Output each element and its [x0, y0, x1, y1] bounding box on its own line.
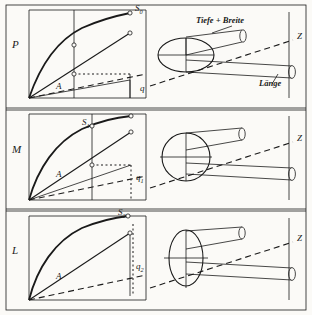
row-l-group [29, 214, 295, 300]
q-label-l: q2 [136, 262, 144, 273]
row-m-group [29, 114, 295, 200]
row-label-m: M [12, 144, 21, 155]
m-node-s1 [129, 114, 133, 118]
curve-label-s0: S0 [135, 4, 143, 15]
l-curve-s2 [29, 216, 128, 300]
q-label-p: q [140, 84, 145, 93]
row-label-p: P [12, 39, 19, 50]
curve-label-a-l: A [56, 272, 62, 281]
q-label-m: q1 [136, 173, 144, 184]
outer-frame [6, 5, 306, 310]
p-cone-upper-cap [240, 30, 246, 42]
z-label-p: Z [297, 32, 302, 41]
p-node-a [128, 31, 132, 35]
curve-label-a-m: A [56, 170, 62, 179]
p-node-s0 [128, 11, 132, 15]
m-line-q [29, 165, 131, 200]
figure-root: .ink{stroke:#1a1a1a;fill:none;} .thin{st… [0, 0, 312, 315]
m-node-a-mid [90, 163, 94, 167]
curve-label-s1: S1 [82, 118, 90, 129]
m-cone-lower-cap [289, 168, 296, 181]
z-label-m: Z [297, 134, 302, 143]
l-cone-upper-top [186, 227, 242, 231]
row-label-l: L [12, 245, 18, 256]
l-cone-lower-cap [289, 268, 296, 281]
p-node-s-mid [72, 43, 76, 47]
diagram-canvas: .ink{stroke:#1a1a1a;fill:none;} .thin{st… [0, 0, 312, 315]
l-cone-lower-bot [186, 274, 292, 280]
l-line-a [29, 233, 130, 300]
l-node-a [128, 231, 132, 235]
m-z-axis [150, 142, 293, 188]
l-dashed-ref [29, 275, 146, 300]
annotation-tiefe-breite: Tiefe + Breite [196, 16, 244, 25]
m-node-a [129, 130, 133, 134]
l-cone-upper-bot [186, 239, 242, 249]
m-cone-upper-cap [239, 128, 245, 140]
p-cone-lower-top [186, 60, 292, 66]
m-cone-lower-top [186, 163, 292, 168]
l-z-axis [150, 242, 293, 288]
curve-label-a-p: A [56, 82, 62, 91]
annotation-laenge: Länge [259, 79, 281, 88]
p-curve-s0 [29, 13, 130, 98]
m-cone-lower-bot [186, 174, 292, 180]
row-p-group [29, 10, 295, 98]
l-cone-upper-cap [239, 227, 245, 239]
p-cone-lower-cap [289, 66, 296, 79]
p-dashed-ref [29, 74, 146, 98]
m-cone-upper-top [186, 128, 242, 133]
p-node-a-mid [72, 72, 76, 76]
m-curve-s1 [29, 116, 131, 200]
z-label-l: Z [297, 234, 302, 243]
m-node-s-mid [90, 124, 94, 128]
curve-label-s2: S2 [118, 208, 126, 219]
m-cone-upper-bot [186, 140, 242, 150]
p-cone-upper-top [186, 30, 242, 37]
l-node-s2 [126, 214, 130, 218]
